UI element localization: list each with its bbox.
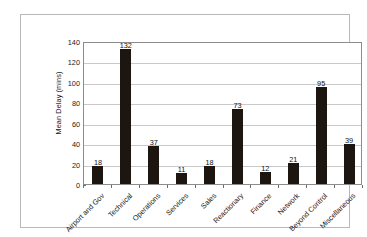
x-axis-tick-mark bbox=[195, 185, 196, 188]
x-axis-tick-marks bbox=[83, 185, 362, 189]
x-axis-tick-mark bbox=[362, 185, 363, 188]
bar bbox=[316, 87, 327, 184]
bar bbox=[204, 166, 215, 184]
x-axis-tick-mark bbox=[83, 185, 84, 188]
bar bbox=[344, 144, 355, 184]
figure-frame: Mean Delay (mins) 140120100806040200 181… bbox=[20, 14, 350, 228]
bar bbox=[288, 163, 299, 184]
bar bbox=[92, 166, 103, 184]
bar bbox=[148, 146, 159, 184]
x-axis-tick-mark bbox=[223, 185, 224, 188]
bar-value-label: 18 bbox=[195, 158, 225, 167]
bar-value-label: 73 bbox=[222, 101, 252, 110]
bar-value-label: 95 bbox=[306, 79, 336, 88]
x-axis-tick-mark bbox=[167, 185, 168, 188]
bar-value-label: 37 bbox=[139, 138, 169, 147]
bar bbox=[232, 109, 243, 184]
bar-value-label: 11 bbox=[167, 165, 197, 174]
bar-value-label: 21 bbox=[278, 155, 308, 164]
x-axis-tick-mark bbox=[306, 185, 307, 188]
x-axis-tick-mark bbox=[139, 185, 140, 188]
x-axis-tick-mark bbox=[334, 185, 335, 188]
x-axis-tick-mark bbox=[111, 185, 112, 188]
bar bbox=[176, 173, 187, 184]
plot-area: 181323711187312219539 bbox=[83, 42, 362, 185]
bar-value-label: 18 bbox=[83, 158, 113, 167]
bar-value-label: 12 bbox=[250, 164, 280, 173]
bar bbox=[120, 49, 131, 184]
bar-value-label: 39 bbox=[334, 136, 364, 145]
bar bbox=[260, 172, 271, 184]
bar-value-label: 132 bbox=[111, 41, 141, 50]
x-axis-tick-mark bbox=[278, 185, 279, 188]
x-axis-tick-mark bbox=[250, 185, 251, 188]
